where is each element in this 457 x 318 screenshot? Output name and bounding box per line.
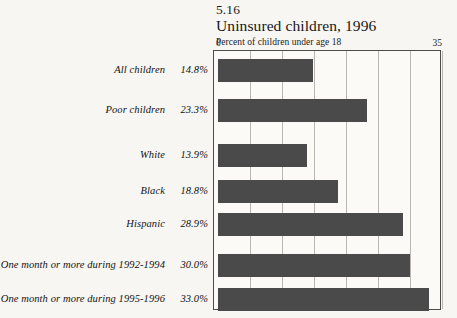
bar (218, 213, 403, 236)
category-row: Hispanic28.9% (126, 212, 208, 235)
gridline-35 (442, 51, 443, 309)
figure-number: 5.16 (216, 2, 454, 17)
category-label: Black (141, 185, 165, 196)
x-axis-max-label: 35 (433, 38, 443, 49)
x-axis-tick-labels: 0 35 (216, 38, 442, 50)
bars-layer (218, 51, 440, 309)
category-label: One month or more during 1995-1996 (1, 293, 165, 304)
category-label: Poor children (105, 104, 165, 115)
category-label: White (140, 149, 165, 160)
category-row: One month or more during 1995-199633.0% (1, 287, 208, 310)
plot-frame (213, 50, 441, 310)
category-label: One month or more during 1992-1994 (1, 259, 165, 270)
category-row: Black18.8% (141, 179, 208, 202)
figure-page: 5.16 Uninsured children, 1996 Percent of… (0, 0, 457, 318)
bar (218, 254, 410, 277)
category-value: 30.0% (174, 259, 208, 270)
x-axis-min-label: 0 (216, 38, 221, 49)
category-value: 14.8% (174, 64, 208, 75)
bar (218, 288, 429, 311)
bar (218, 180, 338, 203)
category-value: 13.9% (174, 149, 208, 160)
plot-inner (218, 51, 440, 309)
category-row: One month or more during 1992-199430.0% (1, 253, 208, 276)
category-label: All children (114, 64, 165, 75)
category-value: 33.0% (174, 293, 208, 304)
category-value: 18.8% (174, 185, 208, 196)
category-value: 28.9% (174, 218, 208, 229)
bar (218, 99, 367, 122)
category-label-column: All children14.8%Poor children23.3%White… (0, 50, 208, 310)
category-value: 23.3% (174, 104, 208, 115)
category-row: White13.9% (140, 143, 208, 166)
figure-title: Uninsured children, 1996 (216, 17, 454, 35)
category-row: All children14.8% (114, 58, 208, 81)
bar (218, 59, 313, 82)
category-row: Poor children23.3% (105, 98, 208, 121)
bar (218, 144, 307, 167)
category-label: Hispanic (126, 218, 165, 229)
